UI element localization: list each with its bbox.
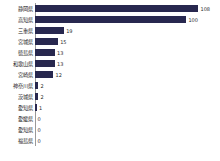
category-label: 神奈川県 [0, 83, 35, 89]
category-label: 高知県 [0, 17, 35, 23]
bar [35, 60, 55, 67]
bar-area: 13 [35, 47, 220, 58]
bar-area: 12 [35, 69, 220, 80]
category-label: 愛知県 [0, 105, 35, 111]
category-label: 徳島県 [0, 50, 35, 56]
bar-row: 和歌山県13 [0, 58, 220, 69]
bar-row: 愛知県0 [0, 124, 220, 135]
value-label: 0 [35, 138, 41, 144]
bar [35, 27, 64, 34]
bar-area: 19 [35, 25, 220, 36]
bar-area: 0 [35, 135, 220, 146]
bar-row: 静岡県108 [0, 3, 220, 14]
value-label: 1 [37, 105, 43, 111]
category-label: 三重県 [0, 28, 35, 34]
bar-row: 宮崎県12 [0, 69, 220, 80]
bar-area: 13 [35, 58, 220, 69]
bar [35, 5, 198, 12]
value-label: 19 [64, 28, 73, 34]
category-label: 茨城県 [0, 94, 35, 100]
bar-row: 宮城県15 [0, 36, 220, 47]
value-label: 15 [58, 39, 67, 45]
value-label: 0 [35, 116, 41, 122]
bar [35, 49, 55, 56]
bar-rows-container: 静岡県108高知県100三重県19宮城県15徳島県13和歌山県13宮崎県12神奈… [0, 3, 220, 146]
category-label: 愛知県 [0, 127, 35, 133]
bar-row: 三重県19 [0, 25, 220, 36]
bar-area: 108 [35, 3, 220, 14]
category-label: 福島県 [0, 138, 35, 144]
value-label: 2 [38, 94, 44, 100]
bar [35, 38, 58, 45]
value-label: 13 [55, 50, 64, 56]
bar-row: 愛知県1 [0, 102, 220, 113]
value-label: 100 [186, 17, 198, 23]
bar-area: 1 [35, 102, 220, 113]
bar-row: 神奈川県2 [0, 80, 220, 91]
bar-area: 15 [35, 36, 220, 47]
value-label: 108 [198, 6, 210, 12]
value-label: 12 [53, 72, 62, 78]
bar-area: 100 [35, 14, 220, 25]
category-label: 宮崎県 [0, 72, 35, 78]
bar-row: 愛媛県0 [0, 113, 220, 124]
bar-area: 0 [35, 124, 220, 135]
category-label: 静岡県 [0, 6, 35, 12]
value-label: 13 [55, 61, 64, 67]
category-label: 和歌山県 [0, 61, 35, 67]
bar-row: 茨城県2 [0, 91, 220, 102]
value-label: 2 [38, 83, 44, 89]
bar-area: 2 [35, 80, 220, 91]
bar-area: 2 [35, 91, 220, 102]
bar-row: 高知県100 [0, 14, 220, 25]
category-label: 宮城県 [0, 39, 35, 45]
bar [35, 71, 53, 78]
bar-chart: 静岡県108高知県100三重県19宮城県15徳島県13和歌山県13宮崎県12神奈… [0, 0, 220, 161]
bar [35, 16, 186, 23]
bar-row: 徳島県13 [0, 47, 220, 58]
bar-row: 福島県0 [0, 135, 220, 146]
category-label: 愛媛県 [0, 116, 35, 122]
bar-area: 0 [35, 113, 220, 124]
value-label: 0 [35, 127, 41, 133]
